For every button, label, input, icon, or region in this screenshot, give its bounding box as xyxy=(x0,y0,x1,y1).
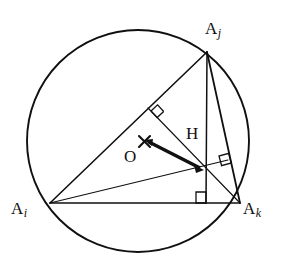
geometry-canvas xyxy=(0,0,285,266)
right-angle-mark-on-aj-ak xyxy=(219,153,231,165)
altitude-from-ai xyxy=(50,160,228,203)
vertex-label-ai: Ai xyxy=(11,200,27,219)
geometry-figure: Aj Ai Ak O H xyxy=(0,0,285,266)
triangle-side-aj-ak xyxy=(207,52,240,203)
circumcircle xyxy=(27,30,249,252)
point-label-h: H xyxy=(186,125,198,142)
altitude-from-ak xyxy=(148,108,240,203)
vertex-label-ak: Ak xyxy=(243,200,261,219)
altitude-from-aj xyxy=(206,52,207,203)
right-angle-mark-on-ai-ak xyxy=(196,192,206,203)
triangle-side-ai-aj xyxy=(50,52,207,203)
vertex-label-aj: Aj xyxy=(205,20,221,39)
right-angle-mark-on-ai-aj xyxy=(151,105,164,118)
point-label-o: O xyxy=(124,148,136,165)
